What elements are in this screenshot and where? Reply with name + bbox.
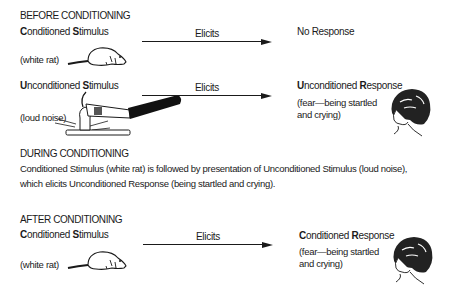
conditioned-response-line2: and crying) <box>299 258 343 269</box>
before-conditioned-stimulus-label: Conditioned Stimulus <box>20 26 109 37</box>
child-face-icon <box>388 234 438 286</box>
rat-icon <box>66 248 130 274</box>
no-response-label: No Response <box>297 26 354 37</box>
elicits-arrow-2: Elicits <box>142 83 272 99</box>
before-heading: BEFORE CONDITIONING <box>20 10 130 21</box>
after-stimulus-example: (white rat) <box>20 259 59 270</box>
conditioned-response-line1: (fear—being startled <box>299 246 379 257</box>
before-stimulus-example: (white rat) <box>20 54 59 65</box>
after-heading: AFTER CONDITIONING <box>20 214 122 225</box>
unconditioned-response-line1: (fear—being startled <box>297 97 377 108</box>
conditioned-response-label: Conditioned Response <box>299 230 394 241</box>
during-description: Conditioned Stimulus (white rat) is foll… <box>20 161 451 191</box>
unconditioned-response-line2: and crying) <box>297 109 341 120</box>
elicits-arrow-1: Elicits <box>142 29 272 45</box>
rat-icon <box>66 44 130 70</box>
during-heading: DURING CONDITIONING <box>20 148 129 159</box>
child-face-icon <box>386 86 436 138</box>
after-conditioned-stimulus-label: Conditioned Stimulus <box>20 229 109 240</box>
elicits-arrow-3: Elicits <box>143 232 273 248</box>
